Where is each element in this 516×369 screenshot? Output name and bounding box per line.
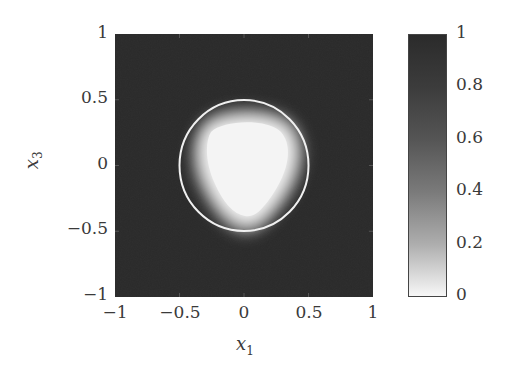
heatmap-plot bbox=[115, 34, 373, 297]
colorbar-tick-label: 0.4 bbox=[456, 179, 483, 199]
x-tick-label: 0.5 bbox=[279, 302, 339, 322]
y-tick-label: 1 bbox=[48, 22, 108, 42]
x-tick-label: −0.5 bbox=[150, 302, 210, 322]
colorbar-tick-label: 0 bbox=[456, 284, 467, 304]
y-tick-label: −1 bbox=[48, 284, 108, 304]
colorbar-tick-label: 1 bbox=[456, 22, 467, 42]
y-tick-label: −0.5 bbox=[48, 218, 108, 238]
y-axis-title: x3 bbox=[21, 151, 46, 169]
x-tick-label: −1 bbox=[85, 302, 145, 322]
x-tick-label: 0 bbox=[214, 302, 274, 322]
colorbar bbox=[408, 34, 447, 297]
x-axis-title: x1 bbox=[236, 333, 254, 358]
x-tick-label: 1 bbox=[343, 302, 403, 322]
colorbar-tick-label: 0.6 bbox=[456, 127, 483, 147]
y-tick-label: 0.5 bbox=[48, 87, 108, 107]
y-tick-label: 0 bbox=[48, 153, 108, 173]
colorbar-tick-label: 0.2 bbox=[456, 232, 483, 252]
colorbar-tick-label: 0.8 bbox=[456, 74, 483, 94]
